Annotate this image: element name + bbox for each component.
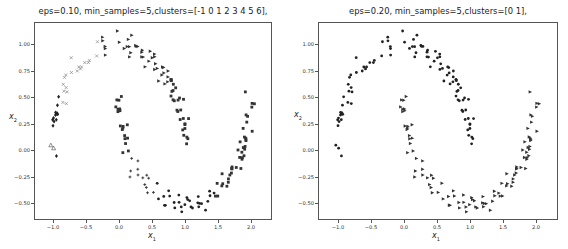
- data-point: [467, 98, 470, 101]
- data-point: [464, 118, 467, 121]
- data-point: [493, 189, 496, 192]
- data-point: [336, 118, 339, 121]
- data-point: [461, 109, 464, 112]
- data-point: [455, 95, 458, 98]
- data-point: [524, 167, 527, 170]
- data-point: [468, 127, 471, 130]
- data-point: [433, 60, 436, 63]
- data-point: [512, 181, 515, 184]
- data-point: [434, 50, 437, 53]
- data-point: [355, 56, 358, 59]
- data-point: [441, 67, 444, 70]
- data-point: [462, 201, 465, 204]
- data-point: [500, 182, 503, 185]
- data-point: [412, 149, 415, 152]
- data-point: [403, 41, 406, 44]
- data-point: [428, 183, 431, 186]
- data-point: [470, 142, 473, 145]
- data-point: [389, 54, 392, 57]
- data-point: [362, 66, 365, 69]
- data-point: [421, 168, 424, 171]
- data-point: [339, 111, 342, 114]
- data-point: [457, 89, 460, 92]
- data-point: [337, 124, 340, 127]
- data-point: [429, 65, 432, 68]
- data-point: [438, 55, 441, 58]
- data-point: [505, 172, 508, 175]
- data-point: [421, 173, 424, 176]
- data-point: [430, 174, 433, 177]
- data-point: [535, 105, 538, 108]
- data-point: [414, 169, 417, 172]
- data-point: [426, 55, 429, 58]
- data-point: [408, 134, 411, 137]
- data-point: [529, 90, 532, 93]
- data-point: [538, 102, 541, 105]
- data-point: [447, 66, 450, 69]
- data-point: [467, 117, 470, 120]
- data-point: [337, 147, 340, 150]
- right-scatter-points: [0, 0, 568, 249]
- data-point: [341, 104, 344, 107]
- data-point: [465, 205, 468, 208]
- data-point: [430, 186, 433, 189]
- data-point: [491, 200, 494, 203]
- data-point: [415, 51, 418, 54]
- data-point: [453, 194, 456, 197]
- data-point: [348, 76, 351, 79]
- data-point: [440, 182, 443, 185]
- data-point: [416, 34, 419, 37]
- data-point: [523, 140, 526, 143]
- data-point: [526, 127, 529, 130]
- data-point: [408, 47, 411, 50]
- data-point: [535, 130, 538, 133]
- data-point: [411, 45, 414, 48]
- data-point: [386, 36, 389, 39]
- data-point: [409, 142, 412, 145]
- data-point: [457, 201, 460, 204]
- data-point: [351, 91, 354, 94]
- data-point: [342, 95, 345, 98]
- data-point: [512, 177, 515, 180]
- data-point: [361, 70, 364, 73]
- data-point: [467, 134, 470, 137]
- data-point: [442, 80, 445, 83]
- data-point: [442, 197, 445, 200]
- data-point: [468, 203, 471, 206]
- data-point: [349, 74, 352, 77]
- data-point: [473, 199, 476, 202]
- data-point: [437, 191, 440, 194]
- data-point: [521, 148, 524, 151]
- data-point: [489, 209, 492, 212]
- data-point: [528, 148, 531, 151]
- data-point: [439, 68, 442, 71]
- data-point: [426, 176, 429, 179]
- data-point: [448, 71, 451, 74]
- data-point: [515, 171, 518, 174]
- data-point: [459, 86, 462, 89]
- data-point: [350, 102, 353, 105]
- data-point: [405, 95, 408, 98]
- data-point: [381, 40, 384, 43]
- data-point: [497, 191, 500, 194]
- data-point: [340, 154, 343, 157]
- data-point: [457, 98, 460, 101]
- data-point: [411, 123, 414, 126]
- data-point: [422, 45, 425, 48]
- data-point: [415, 157, 418, 160]
- data-point: [447, 195, 450, 198]
- data-point: [482, 195, 485, 198]
- data-point: [347, 83, 350, 86]
- data-point: [531, 115, 534, 118]
- data-point: [387, 39, 390, 42]
- data-point: [411, 136, 414, 139]
- data-point: [449, 83, 452, 86]
- data-point: [493, 194, 496, 197]
- data-point: [421, 159, 424, 162]
- data-point: [452, 70, 455, 73]
- data-point: [469, 122, 472, 125]
- data-point: [470, 136, 473, 139]
- data-point: [525, 151, 528, 154]
- data-point: [406, 151, 409, 154]
- data-point: [455, 78, 458, 81]
